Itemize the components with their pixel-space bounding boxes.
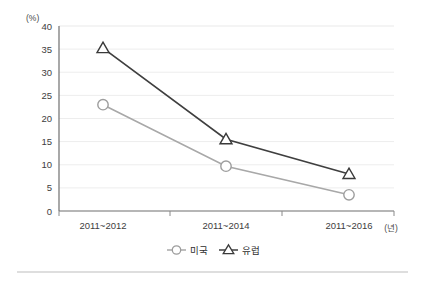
usa-data-point-2 xyxy=(344,190,354,200)
usa-data-point-0 xyxy=(98,100,108,110)
y-tick-label-0: 0 xyxy=(47,206,52,217)
y-tick-label-5: 5 xyxy=(47,182,52,193)
x-axis-unit-label: (년) xyxy=(384,223,398,233)
legend-label-europe: 유럽 xyxy=(242,245,260,256)
legend-circle-icon xyxy=(172,246,180,254)
legend-triangle-icon xyxy=(223,245,234,254)
usa-data-point-1 xyxy=(221,161,231,171)
y-tick-label-15: 15 xyxy=(41,136,52,147)
y-tick-label-10: 10 xyxy=(41,159,52,170)
legend-item-usa: 미국 xyxy=(167,245,208,256)
y-tick-label-25: 25 xyxy=(41,90,52,101)
chart-figure: (%) 40 35 30 25 20 15 10 5 0 2011~2012 2… xyxy=(0,0,425,282)
x-tick-label-2: 2011~2016 xyxy=(325,220,372,231)
y-tick-label-35: 35 xyxy=(41,44,52,55)
legend-label-usa: 미국 xyxy=(190,245,208,256)
legend-item-europe: 유럽 xyxy=(219,245,260,256)
x-tick-label-0: 2011~2012 xyxy=(79,220,126,231)
y-tick-label-20: 20 xyxy=(41,113,52,124)
x-tick-label-1: 2011~2014 xyxy=(202,220,249,231)
chart-legend: 미국 유럽 xyxy=(167,245,260,256)
line-chart: (%) 40 35 30 25 20 15 10 5 0 2011~2012 2… xyxy=(0,0,425,282)
y-tick-label-30: 30 xyxy=(41,67,52,78)
y-tick-label-40: 40 xyxy=(41,21,52,32)
y-axis-unit-label: (%) xyxy=(26,13,39,23)
x-axis-ticks xyxy=(59,211,394,216)
